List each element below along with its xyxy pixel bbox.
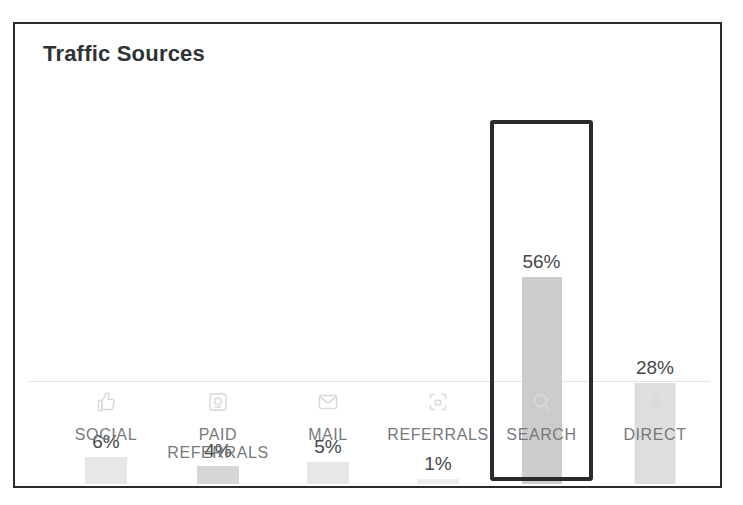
bar-column-mail[interactable]: 5% MAIL bbox=[270, 84, 386, 484]
bar-column-social[interactable]: 6% SOCIAL bbox=[48, 84, 164, 484]
axis-label-search: SEARCH bbox=[506, 426, 576, 444]
search-icon bbox=[529, 389, 555, 415]
bar-column-referrals[interactable]: 1% REFERRALS bbox=[378, 84, 498, 484]
envelope-icon bbox=[315, 389, 341, 415]
axis-label-social: SOCIAL bbox=[75, 426, 137, 444]
bar-social[interactable] bbox=[85, 457, 127, 484]
bar-value-direct: 28% bbox=[636, 357, 674, 379]
bar-column-direct[interactable]: 28% DIRECT bbox=[598, 84, 712, 484]
thumbs-up-icon bbox=[93, 389, 119, 415]
traffic-sources-card: Traffic Sources 6% SOCIAL 4% bbox=[13, 22, 722, 488]
bar-chart: 6% SOCIAL 4% PA bbox=[15, 24, 720, 486]
bar-search[interactable] bbox=[522, 277, 562, 484]
axis-label-mail: MAIL bbox=[308, 426, 348, 444]
bar-paid-referrals[interactable] bbox=[197, 466, 239, 484]
axis-label-referrals: REFERRALS bbox=[387, 426, 488, 444]
axis-label-direct: DIRECT bbox=[623, 426, 686, 444]
referral-box-icon bbox=[425, 389, 451, 415]
bar-referrals[interactable] bbox=[417, 479, 459, 484]
bar-value-referrals: 1% bbox=[424, 453, 451, 475]
bar-value-search: 56% bbox=[522, 251, 560, 273]
bar-column-search[interactable]: 56% SEARCH bbox=[492, 84, 591, 484]
lightning-bolt-icon bbox=[642, 389, 668, 415]
axis-label-paid-referrals: PAID REFERRALS bbox=[167, 426, 268, 462]
paid-box-icon bbox=[205, 389, 231, 415]
bar-mail[interactable] bbox=[307, 462, 349, 484]
bar-column-paid-referrals[interactable]: 4% PAID REFERRALS bbox=[160, 84, 276, 484]
